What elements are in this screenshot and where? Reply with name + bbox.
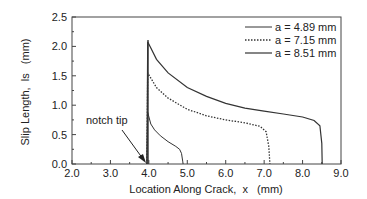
y-tick-label: 2.0: [52, 40, 67, 52]
legend: a = 4.89 mma = 7.15 mma = 8.51 mm: [245, 21, 336, 59]
x-tick-label: 7.0: [256, 167, 271, 179]
x-tick-label: 6.0: [218, 167, 233, 179]
notch-tip-annotation: notch tip: [86, 114, 128, 126]
series-line: [147, 112, 183, 164]
legend-label: a = 8.51 mm: [275, 47, 336, 59]
x-tick-label: 2.0: [64, 167, 79, 179]
x-tick-label: 4.0: [141, 167, 156, 179]
slip-length-chart: 0.00.51.01.52.02.5 2.03.04.05.06.07.08.0…: [0, 0, 367, 199]
legend-label: a = 7.15 mm: [275, 34, 336, 46]
series-line: [147, 73, 270, 164]
x-tick-label: 8.0: [295, 167, 310, 179]
x-tick-label: 9.0: [333, 167, 348, 179]
y-axis-label: Slip Length, ls (mm): [19, 39, 31, 146]
x-tick-labels: 2.03.04.05.06.07.08.09.0: [64, 167, 348, 179]
data-series: [147, 42, 322, 164]
y-tick-label: 0.5: [52, 129, 67, 141]
y-tick-labels: 0.00.51.01.52.02.5: [52, 11, 67, 170]
y-tick-label: 2.5: [52, 11, 67, 23]
x-axis-label: Location Along Crack, x (mm): [129, 183, 282, 195]
y-tick-label: 1.5: [52, 70, 67, 82]
x-tick-label: 3.0: [103, 167, 118, 179]
x-tick-label: 5.0: [180, 167, 195, 179]
series-line: [147, 42, 322, 164]
legend-label: a = 4.89 mm: [275, 21, 336, 33]
y-tick-label: 1.0: [52, 99, 67, 111]
arrow-icon: [122, 130, 146, 163]
